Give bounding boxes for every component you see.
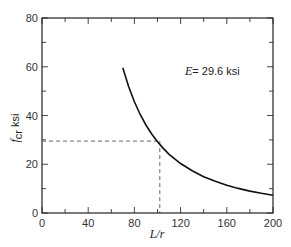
x-tick-label: 160 (218, 217, 236, 229)
y-tick-label: 20 (26, 158, 38, 170)
chart: 04080120160200020406080 L/r fcrksi E= 29… (0, 0, 291, 247)
euler-curve (123, 68, 273, 196)
y-axis-title: fcrksi (8, 114, 24, 143)
x-axis-title: L/r (149, 227, 165, 241)
x-tick-label: 80 (128, 217, 140, 229)
modulus-annotation-value: = 29.6 ksi (192, 65, 239, 77)
x-tick-label: 120 (171, 217, 189, 229)
y-axis-title-sub: cr (12, 130, 24, 140)
plot-frame (42, 18, 273, 213)
tick-labels: 04080120160200020406080 (26, 12, 282, 229)
x-tick-label: 40 (82, 217, 94, 229)
ticks (42, 18, 273, 213)
y-tick-label: 60 (26, 61, 38, 73)
modulus-annotation: E= 29.6 ksi (184, 64, 240, 78)
y-axis-title-unit: ksi (9, 114, 21, 127)
x-tick-label: 0 (39, 217, 45, 229)
x-tick-label: 200 (264, 217, 282, 229)
y-tick-label: 0 (32, 207, 38, 219)
y-tick-label: 40 (26, 110, 38, 122)
y-tick-label: 80 (26, 12, 38, 24)
